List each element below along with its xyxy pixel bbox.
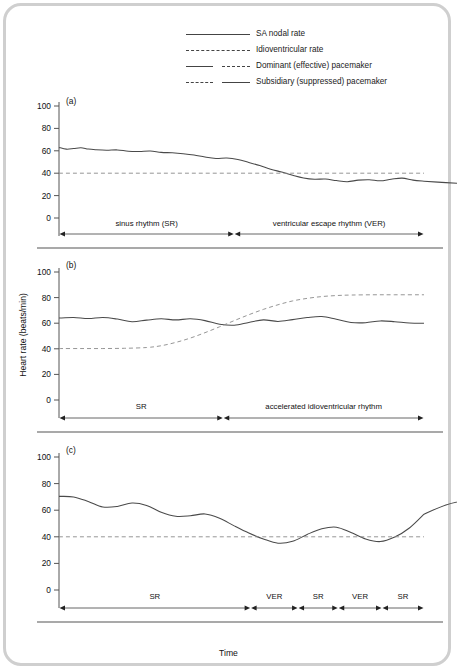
svg-text:80: 80 xyxy=(42,293,52,303)
svg-text:60: 60 xyxy=(42,146,52,156)
panel-label-b: (b) xyxy=(66,260,76,270)
chart-b-svg: 020406080100SRaccelerated idioventricula… xyxy=(0,258,457,438)
chart-panel-b: 020406080100SRaccelerated idioventricula… xyxy=(0,258,457,438)
legend-key-dashed-then-solid-line xyxy=(186,74,250,90)
chart-c-svg: 020406080100SRVERSRVERSR xyxy=(0,443,457,628)
legend-item-dominant-pacemaker: Dominant (effective) pacemaker xyxy=(186,58,436,74)
svg-text:100: 100 xyxy=(37,101,51,111)
panel-label-c: (c) xyxy=(66,445,76,455)
svg-text:20: 20 xyxy=(42,369,52,379)
x-axis-label: Time xyxy=(0,648,457,658)
svg-text:20: 20 xyxy=(42,191,52,201)
svg-text:80: 80 xyxy=(42,479,52,489)
figure: SA nodal rate Idioventricular rate Domin… xyxy=(0,0,457,672)
legend-label: SA nodal rate xyxy=(256,26,305,42)
svg-text:SR: SR xyxy=(149,592,160,601)
legend-item-sa-nodal-rate: SA nodal rate xyxy=(186,26,436,42)
svg-text:SR: SR xyxy=(136,402,147,411)
svg-text:ventricular escape rhythm (VER: ventricular escape rhythm (VER) xyxy=(273,219,386,228)
legend-label: Idioventricular rate xyxy=(256,42,323,58)
svg-text:100: 100 xyxy=(37,452,51,462)
chart-panel-a: 020406080100sinus rhythm (SR)ventricular… xyxy=(0,96,457,256)
svg-text:0: 0 xyxy=(46,213,51,223)
legend-key-solid-line xyxy=(186,26,250,42)
svg-text:VER: VER xyxy=(266,592,282,601)
svg-text:60: 60 xyxy=(42,505,52,515)
svg-text:20: 20 xyxy=(42,558,52,568)
chart-panel-c: 020406080100SRVERSRVERSR (c) xyxy=(0,443,457,628)
legend-key-solid-then-dashed-line xyxy=(186,58,250,74)
svg-text:0: 0 xyxy=(46,395,51,405)
svg-text:40: 40 xyxy=(42,532,52,542)
svg-text:60: 60 xyxy=(42,318,52,328)
svg-text:accelerated idioventricular rh: accelerated idioventricular rhythm xyxy=(265,402,382,411)
chart-a-svg: 020406080100sinus rhythm (SR)ventricular… xyxy=(0,96,457,256)
svg-text:sinus rhythm (SR): sinus rhythm (SR) xyxy=(115,219,178,228)
svg-text:40: 40 xyxy=(42,168,52,178)
svg-text:SR: SR xyxy=(398,592,409,601)
svg-text:0: 0 xyxy=(46,585,51,595)
svg-text:SR: SR xyxy=(313,592,324,601)
svg-text:80: 80 xyxy=(42,123,52,133)
legend-item-subsidiary-pacemaker: Subsidiary (suppressed) pacemaker xyxy=(186,74,436,90)
legend-item-idioventricular-rate: Idioventricular rate xyxy=(186,42,436,58)
svg-text:VER: VER xyxy=(352,592,368,601)
svg-text:40: 40 xyxy=(42,344,52,354)
legend-key-dashed-line xyxy=(186,42,250,58)
legend: SA nodal rate Idioventricular rate Domin… xyxy=(186,26,436,90)
svg-text:100: 100 xyxy=(37,267,51,277)
legend-label: Subsidiary (suppressed) pacemaker xyxy=(256,74,387,90)
legend-label: Dominant (effective) pacemaker xyxy=(256,58,372,74)
panel-label-a: (a) xyxy=(66,96,76,106)
